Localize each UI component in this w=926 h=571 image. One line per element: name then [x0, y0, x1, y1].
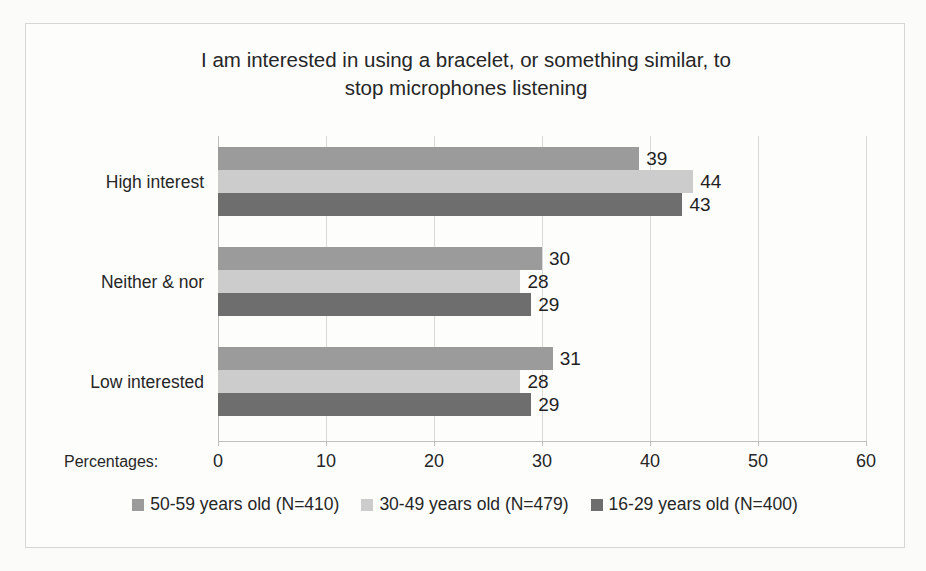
x-tick-label-40: 40 — [620, 451, 680, 472]
bar-value-label: 31 — [553, 348, 581, 370]
bar-row: 31 — [218, 347, 866, 370]
bar-group: High interest394443 — [218, 147, 866, 216]
chart-container: I am interested in using a bracelet, or … — [25, 23, 905, 548]
category-label: Neither & nor — [4, 271, 204, 292]
bar-value-label: 28 — [520, 271, 548, 293]
bar-row: 39 — [218, 147, 866, 170]
bar-value-label: 43 — [682, 194, 710, 216]
x-tick-mark-30 — [542, 441, 543, 446]
legend-swatch-icon — [361, 499, 373, 511]
category-label: Low interested — [4, 371, 204, 392]
bar-value-label: 44 — [693, 171, 721, 193]
bar-row: 28 — [218, 370, 866, 393]
legend-item[interactable]: 30-49 years old (N=479) — [361, 494, 568, 515]
x-tick-mark-60 — [866, 441, 867, 446]
bar[interactable] — [218, 170, 693, 193]
bar[interactable] — [218, 370, 520, 393]
bar-value-label: 29 — [531, 394, 559, 416]
x-tick-label-50: 50 — [728, 451, 788, 472]
bar[interactable] — [218, 270, 520, 293]
bar[interactable] — [218, 293, 531, 316]
legend-item[interactable]: 50-59 years old (N=410) — [132, 494, 339, 515]
bar-row: 29 — [218, 393, 866, 416]
gridline-60 — [866, 136, 867, 441]
x-tick-mark-10 — [326, 441, 327, 446]
chart-title: I am interested in using a bracelet, or … — [116, 46, 816, 101]
x-tick-label-20: 20 — [404, 451, 464, 472]
x-tick-mark-20 — [434, 441, 435, 446]
bar[interactable] — [218, 147, 639, 170]
bar-row: 29 — [218, 293, 866, 316]
bar-value-label: 29 — [531, 294, 559, 316]
x-tick-mark-50 — [758, 441, 759, 446]
x-tick-label-60: 60 — [836, 451, 896, 472]
chart-title-line-1: I am interested in using a bracelet, or … — [116, 46, 816, 74]
bar-row: 30 — [218, 247, 866, 270]
x-tick-mark-0 — [218, 441, 219, 446]
bar-group: Neither & nor302829 — [218, 247, 866, 316]
bar[interactable] — [218, 393, 531, 416]
bar-value-label: 30 — [542, 248, 570, 270]
category-label: High interest — [4, 171, 204, 192]
x-tick-label-10: 10 — [296, 451, 356, 472]
x-tick-label-0: 0 — [188, 451, 248, 472]
legend-swatch-icon — [591, 499, 603, 511]
x-tick-label-30: 30 — [512, 451, 572, 472]
bar-row: 28 — [218, 270, 866, 293]
legend-item[interactable]: 16-29 years old (N=400) — [591, 494, 798, 515]
legend-swatch-icon — [132, 499, 144, 511]
bar-row: 44 — [218, 170, 866, 193]
bar[interactable] — [218, 193, 682, 216]
bar-value-label: 28 — [520, 371, 548, 393]
chart-legend: 50-59 years old (N=410)30-49 years old (… — [26, 494, 904, 515]
bar-row: 43 — [218, 193, 866, 216]
bar[interactable] — [218, 247, 542, 270]
legend-label: 16-29 years old (N=400) — [609, 494, 798, 515]
bar-value-label: 39 — [639, 148, 667, 170]
legend-label: 30-49 years old (N=479) — [379, 494, 568, 515]
legend-label: 50-59 years old (N=410) — [150, 494, 339, 515]
bar-group: Low interested312829 — [218, 347, 866, 416]
x-tick-mark-40 — [650, 441, 651, 446]
plot-area: High interest394443Neither & nor302829Lo… — [218, 136, 866, 441]
x-axis-title: Percentages: — [64, 453, 158, 471]
bar[interactable] — [218, 347, 553, 370]
chart-title-line-2: stop microphones listening — [116, 74, 816, 102]
